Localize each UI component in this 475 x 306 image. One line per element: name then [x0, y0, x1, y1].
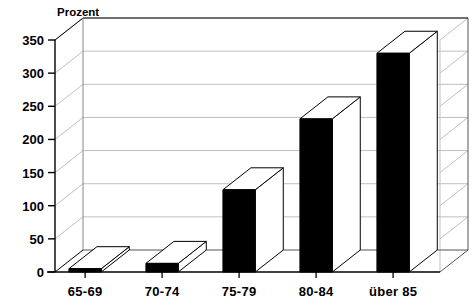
y-tick-label-100: 100 [22, 199, 44, 214]
x-tick-label-70-74: 70-74 [145, 284, 180, 299]
bar-80-84 [300, 97, 360, 272]
bar-front-face [69, 269, 101, 272]
y-tick-label-300: 300 [22, 66, 44, 81]
x-tick-label-75-79: 75-79 [222, 284, 257, 299]
y-tick-label-200: 200 [22, 132, 44, 147]
bar-chart: Prozent 050100150200250300350 65-6970-74… [0, 0, 475, 306]
x-tick-label-65-69: 65-69 [68, 284, 103, 299]
y-tick-label-350: 350 [22, 33, 44, 48]
y-tick-label-0: 0 [37, 265, 44, 280]
bar-front-face [223, 190, 255, 272]
x-tick-label-80-84: 80-84 [299, 284, 334, 299]
bar-front-face [146, 263, 178, 272]
bar-front-face [300, 119, 332, 272]
bar-front-face [377, 53, 409, 272]
chart-canvas: Prozent 050100150200250300350 65-6970-74… [0, 0, 475, 306]
x-tick-label-über-85: über 85 [369, 284, 417, 299]
y-axis-title: Prozent [57, 6, 99, 18]
y-tick-label-250: 250 [22, 99, 44, 114]
bar-über-85 [377, 31, 437, 272]
y-tick-label-150: 150 [22, 166, 44, 181]
bar-side-face [409, 31, 437, 272]
bar-side-face [332, 97, 360, 272]
y-tick-label-50: 50 [30, 232, 44, 247]
bar-75-79 [223, 168, 283, 272]
